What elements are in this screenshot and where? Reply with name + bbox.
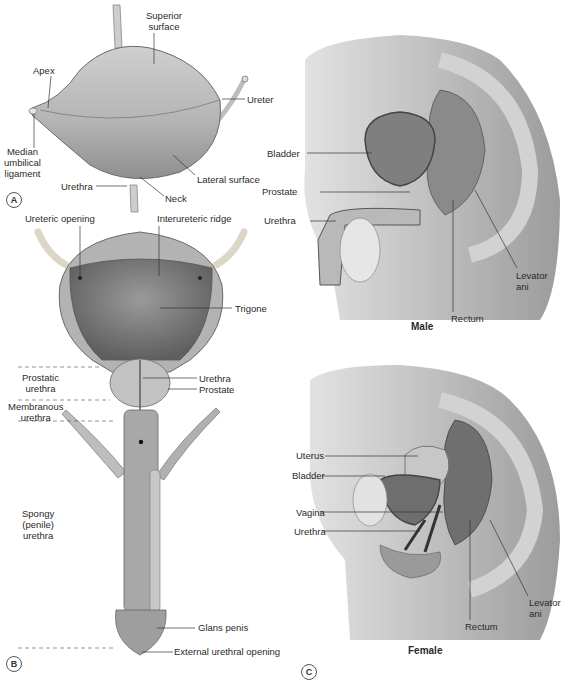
label-urethra-a: Urethra (61, 181, 93, 192)
label-male-prostate: Prostate (262, 186, 297, 197)
label-prostate-b: Prostate (199, 384, 234, 395)
panel-c-female-sagittal (310, 365, 560, 640)
label-spongy-urethra: Spongy (penile) urethra (22, 508, 54, 541)
label-prostatic-urethra: Prostatic urethra (22, 372, 59, 394)
panel-letter-a: A (6, 192, 22, 208)
label-male-urethra: Urethra (264, 215, 296, 226)
caption-female: Female (408, 645, 442, 656)
label-male-bladder: Bladder (267, 148, 300, 159)
panel-b-bladder-section (18, 226, 244, 655)
label-urethra-b: Urethra (199, 373, 231, 384)
label-apex: Apex (33, 65, 55, 76)
label-female-uterus: Uterus (296, 450, 324, 461)
label-median-umbilical-ligament: Median umbilical ligament (4, 146, 41, 179)
label-ureteric-opening: Ureteric opening (25, 213, 95, 224)
label-interureteric-ridge: Interureteric ridge (157, 213, 231, 224)
caption-male: Male (411, 321, 433, 332)
label-external-urethral-opening: External urethral opening (174, 646, 280, 657)
label-lateral-surface: Lateral surface (197, 174, 260, 185)
panel-letter-b: B (6, 656, 22, 672)
label-female-vagina: Vagina (296, 507, 325, 518)
label-trigone: Trigone (235, 303, 267, 314)
label-male-levator-ani: Levator ani (516, 270, 548, 292)
label-female-bladder: Bladder (292, 470, 325, 481)
label-female-urethra: Urethra (294, 526, 326, 537)
panel-letter-c: C (301, 664, 317, 680)
label-female-levator-ani: Levator ani (529, 597, 561, 619)
anatomy-illustration (0, 0, 566, 684)
label-neck: Neck (165, 193, 187, 204)
label-ureter: Ureter (247, 94, 273, 105)
label-male-rectum: Rectum (451, 313, 484, 324)
label-glans-penis: Glans penis (198, 622, 248, 633)
label-superior-surface: Superior surface (146, 10, 182, 32)
label-membranous-urethra: Membranous urethra (8, 401, 63, 423)
label-female-rectum: Rectum (465, 621, 498, 632)
